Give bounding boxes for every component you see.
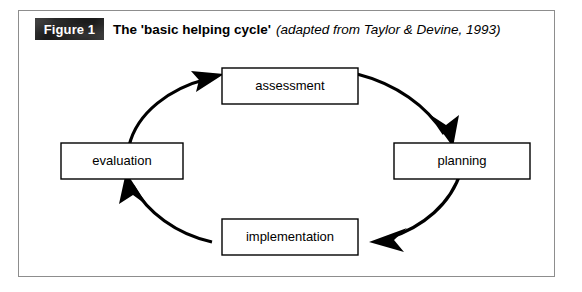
node-planning[interactable]: planning [394, 143, 530, 179]
figure-container: Figure 1 The 'basic helping cycle' (adap… [0, 0, 582, 292]
figure-caption-title: The 'basic helping cycle' [113, 23, 271, 37]
figure-caption: The 'basic helping cycle' (adapted from … [113, 20, 501, 39]
node-implementation[interactable]: implementation [222, 219, 358, 255]
node-implementation-label: implementation [246, 229, 334, 244]
node-evaluation-label: evaluation [92, 153, 151, 168]
arrow-evaluation-to-assessment [129, 71, 224, 146]
figure-caption-source: (adapted from Taylor & Devine, 1993) [276, 23, 501, 37]
node-assessment-label: assessment [255, 78, 325, 93]
figure-number-label: Figure 1 [44, 23, 95, 36]
arrow-implementation-to-evaluation [119, 172, 212, 242]
arrow-planning-to-implementation [369, 171, 461, 252]
node-evaluation[interactable]: evaluation [61, 143, 183, 179]
arrow-assessment-to-planning [357, 74, 459, 147]
node-planning-label: planning [437, 153, 486, 168]
node-assessment[interactable]: assessment [222, 68, 358, 104]
figure-number-badge: Figure 1 [35, 18, 104, 40]
helping-cycle-diagram: assessment planning implementation evalu… [19, 46, 554, 276]
